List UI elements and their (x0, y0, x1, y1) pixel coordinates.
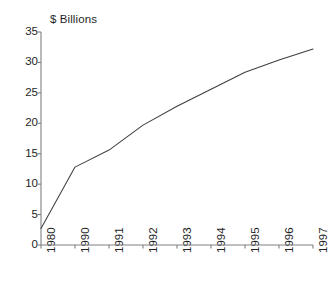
axes-group (41, 32, 313, 245)
data-series-line (41, 49, 313, 229)
